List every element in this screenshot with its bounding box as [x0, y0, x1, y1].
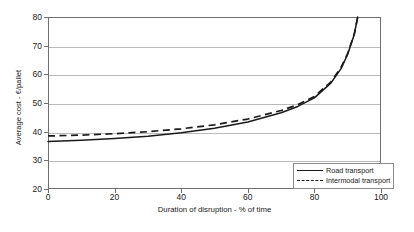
legend: Road transport Intermodal transport — [293, 163, 394, 189]
series-line-intermodal-transport — [48, 17, 358, 136]
x-tick-label: 20 — [110, 192, 119, 202]
y-tick-mark — [44, 103, 48, 104]
x-axis-title: Duration of disruption - % of time — [48, 205, 381, 214]
series-line-road-transport — [48, 17, 358, 141]
chart-container: 80 70 60 50 40 30 20 0 20 40 60 80 100 A… — [0, 0, 414, 232]
y-tick-mark — [44, 74, 48, 75]
legend-label: Road transport — [326, 167, 374, 175]
x-tick-label: 100 — [374, 192, 388, 202]
y-axis-title: Average cost - €/pallet — [14, 43, 23, 173]
y-tick-mark — [44, 46, 48, 47]
x-tick-label: 80 — [310, 192, 319, 202]
legend-item-road-transport: Road transport — [297, 166, 390, 176]
legend-dashed-line-icon — [297, 177, 323, 185]
legend-label: Intermodal transport — [326, 177, 390, 185]
x-tick-label: 40 — [176, 192, 185, 202]
y-tick-mark — [44, 160, 48, 161]
y-tick-mark — [44, 17, 48, 18]
legend-solid-line-icon — [297, 167, 323, 175]
y-tick-label: 20 — [8, 184, 42, 194]
x-tick-label: 0 — [46, 192, 51, 202]
x-tick-label: 60 — [243, 192, 252, 202]
y-tick-mark — [44, 132, 48, 133]
y-tick-label: 80 — [8, 12, 42, 22]
legend-item-intermodal-transport: Intermodal transport — [297, 176, 390, 186]
